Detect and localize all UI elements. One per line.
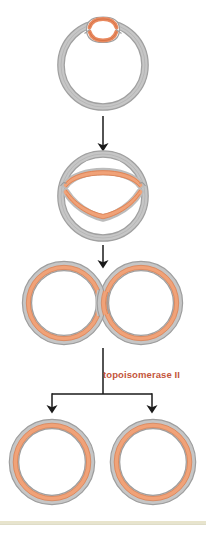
stage3-right-ring-orange: [105, 267, 176, 338]
dna-decatenation-diagram: [0, 0, 206, 535]
stage4-left-ring-orange: [15, 425, 88, 498]
stage-3-catenated-circles: [22, 261, 182, 344]
topoisomerase-label: topoisomerase II: [103, 369, 180, 381]
stage2-duplex-band: [61, 154, 145, 238]
stage3-left-ring: [22, 261, 105, 344]
stage3-right-ring: [99, 261, 182, 344]
stage3-right-ring-overlap-segment: [97, 289, 109, 317]
stage4-left-ring: [9, 419, 94, 504]
stage3-left-ring-orange: [28, 267, 99, 338]
stage-4-separated-circles: [9, 419, 195, 504]
stage2-inner-lower-orange-edge-a: [66, 190, 140, 214]
stage2-inner-lower-orange: [66, 192, 140, 217]
stage-1-replication-bubble-circle: [58, 17, 148, 110]
stage4-right-ring: [110, 419, 195, 504]
diagram-canvas: topoisomerase II: [0, 0, 206, 535]
stage4-right-ring-orange: [116, 425, 189, 498]
footer-band: [0, 521, 206, 525]
stage-2-theta-structure: [58, 151, 148, 241]
